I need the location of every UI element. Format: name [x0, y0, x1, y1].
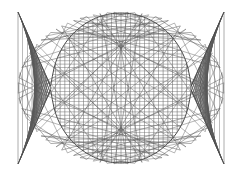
envelope-curve-svg: [0, 0, 242, 176]
string-art-figure: [0, 0, 242, 176]
